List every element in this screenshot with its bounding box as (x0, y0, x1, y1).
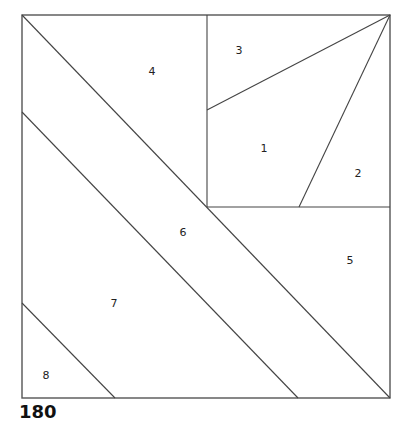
pattern-number: 180 (19, 401, 57, 422)
piece-label-8: 8 (43, 369, 50, 382)
piece-label-6: 6 (180, 226, 187, 239)
piece-label-5: 5 (347, 254, 354, 267)
seam-line-diagonal-lower (22, 112, 298, 398)
piece-label-7: 7 (111, 297, 118, 310)
quilt-block-diagram: 12345678 (0, 0, 410, 426)
seam-line-corner-cut (22, 303, 115, 398)
piece-label-4: 4 (149, 65, 156, 78)
seam-lines (22, 15, 390, 398)
piece-label-3: 3 (236, 44, 243, 57)
piece-label-1: 1 (261, 142, 268, 155)
seam-line-fan-line-2 (299, 15, 390, 207)
piece-labels: 12345678 (43, 44, 362, 382)
piece-label-2: 2 (355, 167, 362, 180)
seam-line-fan-line-3 (207, 15, 390, 110)
